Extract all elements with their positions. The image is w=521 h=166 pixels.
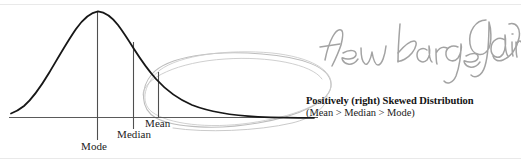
figure-caption: Positively (right) Skewed Distribution (… [306, 95, 474, 119]
axis-label-median: Median [117, 129, 151, 140]
density-curve [11, 11, 314, 118]
axis-label-mode: Mode [81, 141, 107, 152]
skewed-distribution-figure: Mode Median Mean Positively (right) Skew… [0, 0, 521, 166]
tail-annotation-ellipse [143, 52, 331, 131]
distribution-plot [0, 0, 521, 166]
caption-title: Positively (right) Skewed Distribution [306, 95, 474, 107]
handwritten-note-strokes [320, 20, 521, 83]
axis-label-mean: Mean [145, 118, 170, 129]
caption-subtitle: (Mean > Median > Mode) [306, 107, 474, 119]
